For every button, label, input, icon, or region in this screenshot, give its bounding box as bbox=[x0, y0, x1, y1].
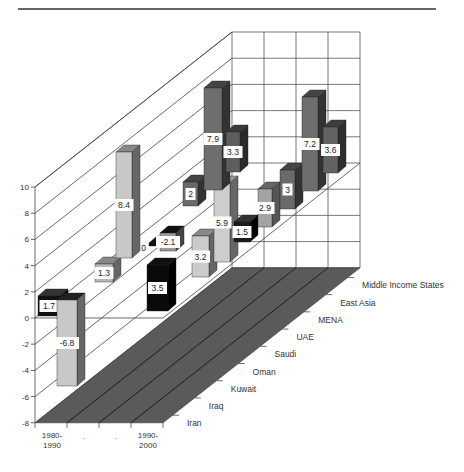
caption bbox=[70, 466, 420, 472]
bar: 3.6 bbox=[321, 120, 346, 173]
value-label: 3.6 bbox=[325, 145, 337, 155]
depth-label: Kuwait bbox=[231, 384, 257, 394]
value-label: 2.9 bbox=[259, 203, 271, 213]
value-label: 7.2 bbox=[304, 139, 316, 149]
y-tick-label: 6 bbox=[25, 235, 30, 244]
depth-label: Saudi bbox=[275, 349, 297, 359]
bar: 2.9 bbox=[256, 182, 281, 227]
depth-label: MENA bbox=[318, 315, 343, 325]
bar: -6.8 bbox=[55, 293, 85, 386]
bar: 3.3 bbox=[224, 125, 249, 172]
value-label: 3 bbox=[285, 185, 290, 195]
value-label: 3.2 bbox=[195, 252, 207, 262]
value-label: 5.9 bbox=[216, 218, 228, 228]
x-tick-label: . bbox=[115, 432, 117, 441]
value-label: 7.9 bbox=[207, 134, 219, 144]
depth-label: Iraq bbox=[209, 401, 224, 411]
depth-label: Oman bbox=[253, 367, 276, 377]
y-tick-label: 8 bbox=[25, 209, 30, 218]
depth-label: UAE bbox=[296, 332, 314, 342]
value-label: -2.1 bbox=[161, 237, 176, 247]
x-tick-label: 2000 bbox=[139, 441, 157, 450]
x-tick-label: 1980- bbox=[42, 431, 63, 440]
y-tick-label: 0 bbox=[25, 314, 30, 323]
bar: -2.1 bbox=[156, 226, 184, 251]
depth-label: Middle Income States bbox=[362, 280, 444, 290]
x-tick-label: 1990- bbox=[138, 431, 159, 440]
bar: 3 bbox=[280, 163, 303, 209]
y-tick-label: 4 bbox=[25, 262, 30, 271]
value-label: 3.5 bbox=[152, 283, 164, 293]
value-label: 1.7 bbox=[43, 301, 55, 311]
bar-side bbox=[295, 163, 303, 209]
value-label: -6.8 bbox=[60, 338, 75, 348]
x-tick-label: . bbox=[83, 432, 85, 441]
bar: 3.5 bbox=[147, 258, 176, 311]
value-label: 8.4 bbox=[118, 200, 130, 210]
y-tick-label: 2 bbox=[25, 288, 30, 297]
depth-label: East Asia bbox=[340, 298, 376, 308]
value-label: 1.5 bbox=[236, 227, 248, 237]
value-label: 2 bbox=[188, 189, 193, 199]
y-tick-label: -4 bbox=[22, 366, 30, 375]
y-tick-label: -6 bbox=[22, 393, 30, 402]
y-tick-label: -8 bbox=[22, 419, 30, 428]
y-tick-label: -2 bbox=[22, 340, 30, 349]
value-label: 3.3 bbox=[227, 147, 239, 157]
bar: 7.2 bbox=[301, 90, 327, 191]
bar: 1.3 bbox=[95, 257, 122, 282]
x-tick-label: 1990 bbox=[43, 441, 61, 450]
bar: 2 bbox=[183, 175, 206, 206]
value-label: 1.3 bbox=[98, 268, 110, 278]
bar: 8.4 bbox=[115, 145, 141, 258]
y-tick-label: 10 bbox=[20, 183, 29, 192]
3d-bar-chart: 1.7-6.81.38.40-2.13.53.225.91.57.93.32.9… bbox=[0, 0, 464, 472]
bar-side bbox=[168, 258, 176, 311]
value-label: 0 bbox=[141, 243, 146, 253]
depth-label: Iran bbox=[187, 418, 202, 428]
bar: 3.2 bbox=[191, 229, 217, 277]
